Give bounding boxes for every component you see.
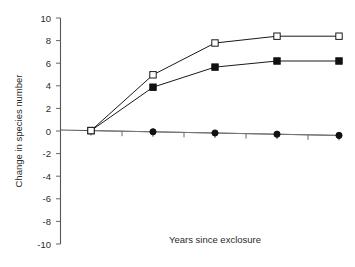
y-axis-ticks [56, 18, 61, 244]
y-tick-label: 10 [40, 13, 51, 24]
y-tick-label: -4 [43, 171, 51, 182]
data-point-marker [88, 127, 94, 133]
y-tick-label: 4 [46, 80, 51, 91]
y-tick-label: -6 [43, 193, 51, 204]
data-point-marker [212, 40, 218, 46]
data-point-marker [336, 33, 342, 39]
markers-open-square [88, 33, 342, 134]
x-axis-title: Years since exclosure [169, 234, 261, 245]
y-axis-tick-labels: 10 8 6 4 2 0 -2 -4 -6 -8 -10 [37, 13, 51, 250]
series-line-filled-square [91, 61, 339, 131]
y-tick-label: 8 [46, 35, 51, 46]
data-point-marker [336, 58, 342, 64]
data-point-marker [274, 33, 280, 39]
y-tick-label: -2 [43, 148, 51, 159]
data-point-marker [150, 72, 156, 78]
y-tick-label: 0 [46, 126, 51, 137]
series-line-open-square [91, 36, 339, 130]
data-point-marker [274, 58, 280, 64]
line-chart-plot: 10 8 6 4 2 0 -2 -4 -6 -8 -10 [0, 0, 355, 267]
data-point-marker [274, 131, 280, 137]
y-axis-title: Change in species number [13, 74, 24, 187]
data-point-marker [336, 132, 342, 138]
markers-filled-square [88, 58, 342, 134]
data-point-marker [150, 84, 156, 90]
y-tick-label: -8 [43, 216, 51, 227]
data-point-marker [150, 129, 156, 135]
data-point-marker [212, 130, 218, 136]
y-tick-label: 6 [46, 58, 51, 69]
data-point-marker [212, 64, 218, 70]
y-tick-label: -10 [37, 239, 51, 250]
chart-figure: 10 8 6 4 2 0 -2 -4 -6 -8 -10 [0, 0, 355, 267]
y-tick-label: 2 [46, 103, 51, 114]
